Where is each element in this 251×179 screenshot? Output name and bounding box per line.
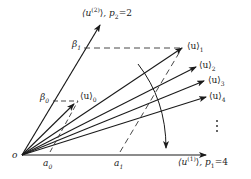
vector-u0-label: ⟨u⟩0 — [80, 92, 97, 101]
diagram-canvas — [0, 0, 251, 179]
u1-axis-label: ⟨u(1)⟩, p1=4 — [178, 158, 228, 167]
a0-label: a0 — [43, 159, 52, 168]
a1-label: a1 — [114, 159, 123, 168]
dashed-a1 — [120, 48, 182, 152]
vector-u2-label: ⟨u⟩2 — [199, 61, 216, 70]
u2-axis-label: ⟨u(2)⟩, p2=2 — [82, 9, 132, 18]
beta1-label: β1 — [72, 40, 81, 49]
vector-u3-label: ⟨u⟩3 — [208, 76, 225, 85]
origin-label: o — [12, 151, 17, 160]
vector-u4-label: ⟨u⟩4 — [209, 92, 226, 101]
beta0-label: β0 — [40, 93, 49, 102]
vector-u1-label: ⟨u⟩1 — [187, 42, 204, 51]
continuation-dots — [215, 120, 219, 135]
vector-u3 — [22, 81, 204, 155]
vector-u4 — [22, 97, 206, 155]
